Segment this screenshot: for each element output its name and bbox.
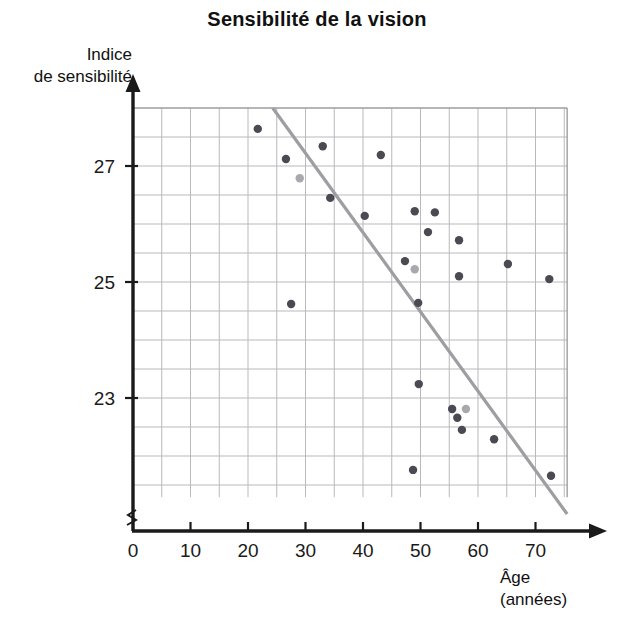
data-point <box>431 208 439 216</box>
data-point <box>411 207 419 215</box>
data-point <box>414 299 422 307</box>
x-axis-tick-label: 30 <box>295 540 316 561</box>
grid-lines <box>133 108 567 497</box>
x-axis-tick-label: 10 <box>180 540 201 561</box>
data-point <box>319 142 327 150</box>
data-point <box>254 125 262 133</box>
data-point <box>490 435 498 443</box>
data-point <box>448 405 456 413</box>
data-point <box>411 265 419 273</box>
x-axis-tick-label: 60 <box>467 540 488 561</box>
data-point <box>377 151 385 159</box>
scatter-plot-svg: 010203040506070232527 <box>0 0 634 617</box>
data-point <box>296 174 304 182</box>
data-point <box>424 228 432 236</box>
x-axis-tick-label: 50 <box>410 540 431 561</box>
data-point <box>287 300 295 308</box>
x-axis-arrowhead <box>589 524 607 539</box>
y-axis-arrowhead <box>126 74 141 92</box>
x-axis-tick-label: 40 <box>352 540 373 561</box>
x-axis-tick-label: 20 <box>237 540 258 561</box>
x-axis-tick-label: 70 <box>525 540 546 561</box>
x-axis-tick-label: 0 <box>128 540 139 561</box>
y-axis-tick-label: 23 <box>94 388 115 409</box>
data-point <box>361 212 369 220</box>
data-point <box>401 257 409 265</box>
data-point <box>326 194 334 202</box>
data-point <box>458 426 466 434</box>
data-point <box>282 155 290 163</box>
data-point <box>547 472 555 480</box>
data-point <box>455 236 463 244</box>
data-point <box>409 466 417 474</box>
data-point <box>455 272 463 280</box>
y-axis-tick-label: 27 <box>94 156 115 177</box>
data-point <box>504 260 512 268</box>
chart-container: Sensibilité de la vision Indice de sensi… <box>0 0 634 617</box>
data-point <box>545 275 553 283</box>
data-point <box>453 414 461 422</box>
data-point <box>415 380 423 388</box>
data-point <box>462 405 470 413</box>
y-axis-tick-label: 25 <box>94 272 115 293</box>
